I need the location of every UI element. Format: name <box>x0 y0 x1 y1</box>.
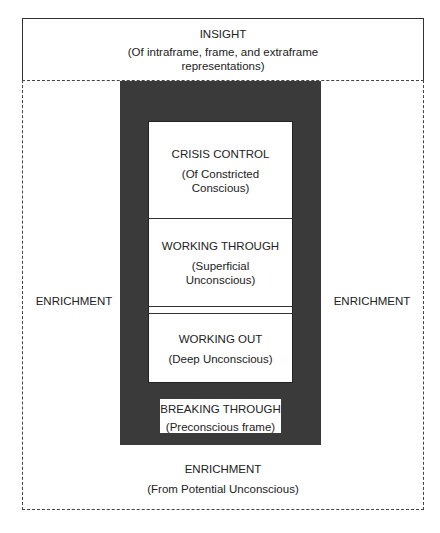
breaking-through-section: BREAKING THROUGH (Preconscious frame) <box>160 402 281 434</box>
insight-subtitle-1: (Of intraframe, frame, and extraframe <box>22 45 424 59</box>
crisis-control-subtitle-1: (Of Constricted <box>148 167 293 181</box>
breaking-through-subtitle: (Preconscious frame) <box>160 420 281 434</box>
crisis-control-title: CRISIS CONTROL <box>148 147 293 161</box>
enrichment-right-label: ENRICHMENT <box>322 294 422 308</box>
working-through-section: WORKING THROUGH (Superficial Unconscious… <box>148 239 293 287</box>
working-through-title: WORKING THROUGH <box>148 239 293 253</box>
enrichment-bottom-title: ENRICHMENT <box>22 462 424 476</box>
breaking-through-title: BREAKING THROUGH <box>160 402 281 416</box>
crisis-control-subtitle-2: Conscious) <box>148 181 293 195</box>
divider-line <box>148 218 293 219</box>
working-out-subtitle: (Deep Unconscious) <box>148 352 293 366</box>
enrichment-bottom-section: ENRICHMENT (From Potential Unconscious) <box>22 462 424 496</box>
insight-title: INSIGHT <box>22 27 424 41</box>
divider-line <box>148 313 293 314</box>
working-out-section: WORKING OUT (Deep Unconscious) <box>148 332 293 366</box>
insight-label: INSIGHT (Of intraframe, frame, and extra… <box>22 27 424 73</box>
divider-line <box>148 306 293 307</box>
enrichment-bottom-subtitle: (From Potential Unconscious) <box>22 482 424 496</box>
insight-subtitle-2: representations) <box>22 59 424 73</box>
crisis-control-section: CRISIS CONTROL (Of Constricted Conscious… <box>148 147 293 195</box>
enrichment-left-label: ENRICHMENT <box>30 294 118 308</box>
working-through-subtitle-1: (Superficial <box>148 259 293 273</box>
working-through-subtitle-2: Unconscious) <box>148 273 293 287</box>
working-out-title: WORKING OUT <box>148 332 293 346</box>
